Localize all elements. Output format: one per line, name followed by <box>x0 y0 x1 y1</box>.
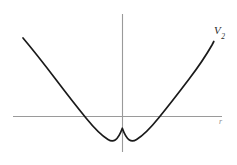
curve-label: V2 <box>214 25 224 39</box>
curve-subscript: 2 <box>221 32 225 41</box>
curve-symbol: V <box>214 24 221 36</box>
xaxis-label: r <box>219 118 222 126</box>
double-well-potential-figure: V2 r <box>0 0 237 165</box>
potential-curve <box>23 38 214 141</box>
plot-canvas <box>0 0 237 165</box>
